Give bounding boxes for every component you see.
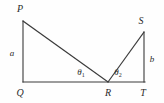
- angle-label-theta1: θ1: [77, 68, 85, 78]
- vertex-label-q: Q: [16, 88, 23, 98]
- vertex-label-p: P: [17, 4, 23, 14]
- vertex-label-t: T: [140, 88, 146, 98]
- angle-subscript-theta2: 2: [119, 72, 122, 78]
- side-label-a: a: [10, 49, 15, 58]
- side-label-b: b: [150, 55, 155, 64]
- segment-pr: [23, 21, 108, 82]
- angle-label-theta2: θ2: [114, 68, 122, 78]
- vertex-label-r: R: [105, 88, 111, 98]
- angle-subscript-theta1: 1: [82, 72, 85, 78]
- vertex-label-s: S: [139, 16, 144, 26]
- angle-symbol-theta1: θ: [77, 67, 81, 77]
- geometry-figure: P Q R T S a b θ1 θ2: [0, 0, 164, 103]
- angle-symbol-theta2: θ: [114, 67, 118, 77]
